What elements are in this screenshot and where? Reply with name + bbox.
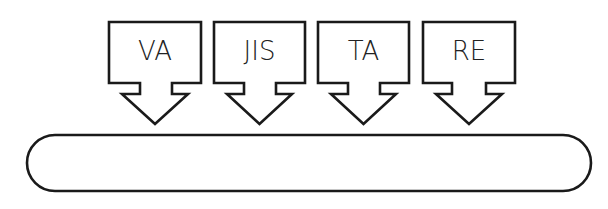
target-container xyxy=(27,135,591,191)
input-label-ta: TA xyxy=(348,36,380,66)
rounded-pill-shape xyxy=(27,135,591,191)
input-arrow-jis: JIS xyxy=(214,22,305,124)
input-arrow-va: VA xyxy=(109,22,201,124)
input-arrow-re: RE xyxy=(423,22,515,124)
flow-diagram: VA JIS TA RE xyxy=(0,0,608,209)
input-label-jis: JIS xyxy=(244,36,276,66)
input-arrow-ta: TA xyxy=(318,22,409,124)
input-label-va: VA xyxy=(138,36,172,66)
input-label-re: RE xyxy=(452,36,487,66)
